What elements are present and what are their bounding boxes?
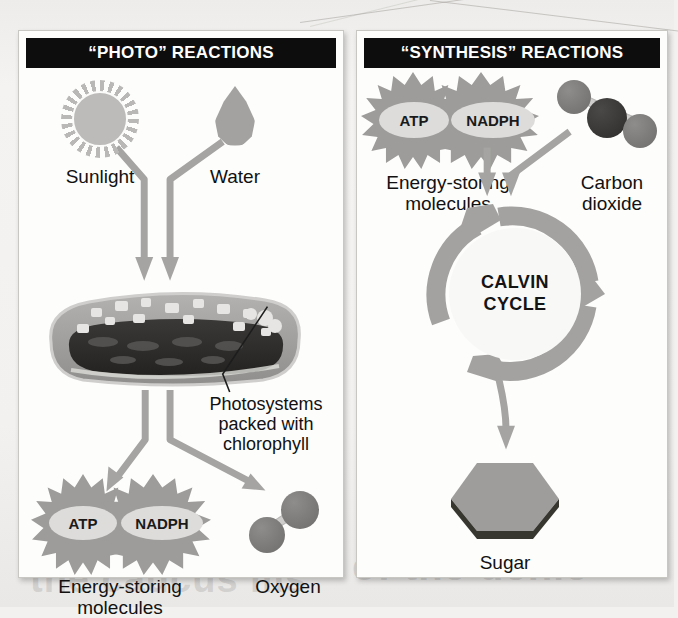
label-oxygen: Oxygen (233, 576, 343, 597)
panel-photo-title: “PHOTO” REACTIONS (26, 38, 336, 68)
page-crease-icon (310, 0, 427, 27)
sugar-hexagon-icon (449, 461, 561, 543)
panel-synthesis-title: “SYNTHESIS” REACTIONS (364, 38, 660, 68)
page-crease-icon (430, 0, 678, 31)
badge-atp: ATP (49, 506, 117, 540)
label-energy-storing-molecules: Energy-storing molecules (29, 576, 211, 618)
panel-synthesis-reactions: “SYNTHESIS” REACTIONS ATP NADPH Energy-s… (356, 30, 668, 578)
badge-nadph: NADPH (121, 506, 203, 540)
oxygen-atom-icon (281, 491, 319, 529)
oxygen-atom-icon (249, 517, 285, 553)
panel-photo-reactions: “PHOTO” REACTIONS Sunlight Water (18, 30, 344, 578)
panel-synthesis-body: ATP NADPH Energy-storing molecules Carbo… (357, 76, 667, 579)
label-sugar: Sugar (443, 552, 567, 573)
panel-photo-body: Sunlight Water (19, 76, 343, 579)
